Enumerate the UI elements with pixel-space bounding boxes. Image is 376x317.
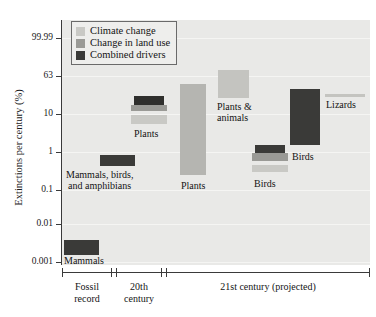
gridline (62, 114, 370, 115)
legend-label-change-in-land-use: Change in land use (90, 38, 170, 49)
bar-plants-20c-land-use (131, 105, 167, 111)
bar-birds-small-land-use (252, 153, 288, 161)
bar-label-birds-small: Birds (254, 178, 276, 189)
x-group-label-20th-century-line1: 20th (116, 281, 162, 293)
y-axis-tick (56, 224, 61, 225)
bar-mammals-combined (64, 240, 99, 255)
y-axis-tick (56, 76, 61, 77)
bar-label-lizards: Lizards (326, 99, 356, 110)
legend-label-combined-drivers: Combined drivers (90, 50, 166, 61)
bar-lizards-climate (325, 94, 365, 97)
x-axis-line (62, 272, 370, 273)
x-axis-tick (111, 268, 112, 277)
gridline (62, 224, 370, 225)
x-axis-tick (166, 268, 167, 277)
legend-swatch-climate-change (76, 27, 85, 36)
bar-plants-21c-land-use (180, 84, 206, 175)
x-group-label-20th-century-line2: century (114, 293, 164, 305)
legend-swatch-combined-drivers (76, 51, 85, 60)
bar-plants-20c-climate (131, 115, 167, 124)
x-axis-tick (116, 268, 117, 277)
bar-label-mammals-birds-amphibians-line1: Mammals, birds, (66, 169, 134, 180)
y-axis-label-1: 1 (48, 147, 53, 157)
gridline (62, 152, 370, 153)
x-group-label-fossil-record-line2: record (62, 293, 112, 305)
y-axis-tick (56, 190, 61, 191)
y-axis-title: Extinctions per century (%) (13, 48, 24, 248)
legend-item-climate-change: Climate change (76, 25, 170, 37)
bar-birds-large-combined (290, 89, 320, 145)
bar-label-plants-animals-line1: Plants & (217, 101, 252, 112)
gridline (62, 76, 370, 77)
y-axis-label-10: 10 (44, 109, 54, 119)
bar-plants-animals-climate (218, 70, 249, 98)
bar-label-plants-20c: Plants (134, 128, 158, 139)
extinctions-chart-figure: Mammals Mammals, birds, and amphibians P… (0, 0, 376, 317)
x-group-label-fossil-record-line1: Fossil (62, 281, 112, 293)
y-axis-label-99-99: 99.99 (32, 33, 53, 43)
y-axis-label-0-1: 0.1 (41, 185, 53, 195)
y-axis-label-0-01: 0.01 (36, 219, 53, 229)
y-axis-label-63: 63 (44, 71, 54, 81)
bar-birds-small-combined (255, 145, 285, 153)
legend: Climate change Change in land use Combin… (71, 21, 177, 65)
legend-swatch-change-in-land-use (76, 39, 85, 48)
y-axis-tick (56, 114, 61, 115)
bar-label-plants-animals-line2: animals (217, 112, 248, 123)
bar-mammals-birds-amphibians-combined (100, 155, 135, 166)
y-axis-label-0-001: 0.001 (32, 257, 53, 267)
y-axis-line (61, 20, 62, 265)
x-axis-tick (161, 268, 162, 277)
legend-item-combined-drivers: Combined drivers (76, 49, 170, 61)
bar-label-mammals: Mammals (64, 255, 104, 266)
y-axis-tick (56, 38, 61, 39)
bar-label-mammals-birds-amphibians-line2: and amphibians (68, 180, 131, 191)
bar-birds-small-climate (252, 165, 288, 172)
gridline (62, 262, 370, 263)
bar-plants-20c-combined (134, 96, 164, 105)
y-axis-tick (56, 262, 61, 263)
x-group-label-21st-century-projected: 21st century (projected) (166, 281, 370, 293)
y-axis-tick (56, 152, 61, 153)
bar-label-birds-large: Birds (292, 151, 314, 162)
legend-label-climate-change: Climate change (90, 26, 156, 37)
x-axis-tick (62, 268, 63, 277)
legend-item-change-in-land-use: Change in land use (76, 37, 170, 49)
x-axis-tick (369, 268, 370, 277)
bar-label-plants-21c: Plants (181, 180, 205, 191)
